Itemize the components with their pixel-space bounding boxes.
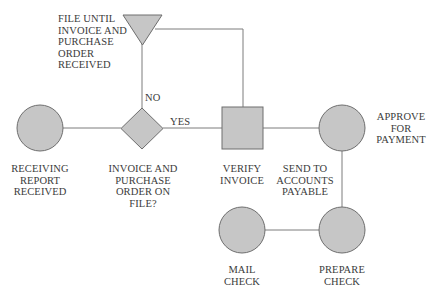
approve-payment-circle-node (319, 105, 365, 151)
mail-check-label: MAIL CHECK (212, 264, 272, 287)
decision-label: INVOICE AND PURCHASE ORDER ON FILE? (102, 163, 184, 209)
send-to-ap-label: SEND TO ACCOUNTS PAYABLE (270, 163, 340, 198)
mail-check-circle-node (219, 207, 265, 253)
no-edge-label: NO (145, 92, 160, 104)
prepare-check-circle-node (319, 207, 365, 253)
approve-payment-label: APPROVE FOR PAYMENT (371, 111, 431, 146)
verify-invoice-label: VERIFY INVOICE (212, 163, 272, 186)
file-until-label: FILE UNTIL INVOICE AND PURCHASE ORDER RE… (58, 13, 127, 71)
yes-edge-label: YES (170, 116, 190, 128)
decision-diamond-node (121, 108, 163, 149)
edge-file-verify (155, 29, 243, 107)
prepare-check-label: PREPARE CHECK (310, 264, 374, 287)
receiving-report-circle-node (17, 105, 63, 151)
receiving-report-label: RECEIVING REPORT RECEIVED (4, 163, 76, 198)
file-triangle-node (123, 15, 162, 45)
verify-invoice-square-node (222, 107, 263, 149)
